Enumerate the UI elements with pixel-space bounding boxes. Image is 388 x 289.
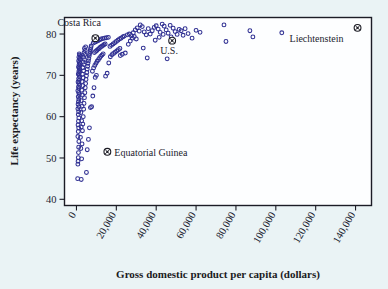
plot-frame [65,18,372,206]
y-tick-label: 80 [46,29,57,40]
y-tick-label: 50 [46,153,57,164]
annotation-label: U.S. [160,45,178,56]
chart-figure: 020,00040,00060,00080,000100,000120,0001… [0,0,388,289]
y-axis-title: Life expectancy (years) [8,56,21,165]
y-tick-label: 70 [46,70,57,81]
highlight-marker-dot [94,37,96,39]
highlight-marker-dot [171,39,173,41]
annotation-label: Costa Rica [57,17,101,28]
annotation-label: Equatorial Guinea [114,147,188,158]
x-axis-title: Gross domestic product per capita (dolla… [116,268,320,281]
highlight-marker-dot [356,27,358,29]
scatter-plot: 020,00040,00060,00080,000100,000120,0001… [0,0,388,289]
y-tick-label: 60 [46,111,57,122]
y-tick-label: 40 [46,194,57,205]
annotation-label: Liechtenstein [290,33,344,44]
highlight-marker-dot [106,151,108,153]
